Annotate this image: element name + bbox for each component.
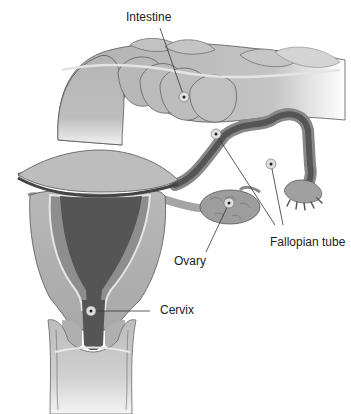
anatomy-diagram	[0, 0, 351, 414]
tube-marker-icon	[266, 159, 276, 169]
label-intestine: Intestine	[126, 10, 171, 24]
label-ovary: Ovary	[174, 254, 206, 268]
cervix-marker-icon	[86, 306, 96, 316]
label-cervix: Cervix	[160, 303, 194, 317]
ovary-marker-icon	[224, 198, 234, 208]
label-fallopian-tube: Fallopian tube	[270, 235, 345, 249]
tube-marker-icon	[211, 129, 221, 139]
intestine-marker-icon	[179, 92, 189, 102]
